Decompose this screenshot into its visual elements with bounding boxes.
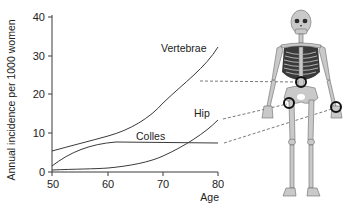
y-tick-0: 0	[39, 166, 45, 178]
hip-label: Hip	[194, 107, 210, 119]
x-tick-labels: 50 60 70 80	[47, 178, 224, 190]
x-tick-70: 70	[157, 178, 169, 190]
colles-label: Colles	[136, 130, 165, 142]
axes	[48, 15, 218, 176]
vertebrae-curve	[52, 47, 218, 151]
y-tick-40: 40	[33, 11, 45, 23]
y-axis-title: Annual incidence per 1000 women	[5, 19, 17, 180]
y-tick-30: 30	[33, 50, 45, 62]
colles-curve	[52, 142, 218, 166]
hip-connector	[223, 104, 287, 119]
vertebrae-connector	[200, 81, 300, 82]
x-axis-title: Age	[200, 191, 219, 203]
skeleton-illustration	[262, 10, 342, 196]
x-tick-80: 80	[212, 178, 224, 190]
x-tick-50: 50	[47, 178, 59, 190]
figure: Annual incidence per 1000 women 0 10 20 …	[0, 0, 354, 214]
y-tick-20: 20	[33, 88, 45, 100]
y-tick-labels: 0 10 20 30 40	[33, 11, 45, 178]
colles-connector	[224, 108, 335, 143]
hip-curve	[52, 120, 218, 170]
vertebrae-label: Vertebrae	[161, 42, 207, 54]
x-tick-60: 60	[102, 178, 114, 190]
y-tick-10: 10	[33, 127, 45, 139]
